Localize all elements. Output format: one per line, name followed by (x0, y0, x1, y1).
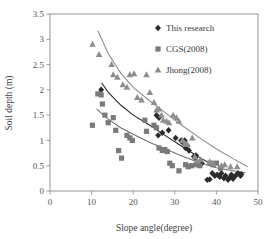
data-point (100, 101, 105, 106)
data-point (130, 138, 135, 143)
data-point (113, 128, 118, 133)
x-tick-label: 0 (48, 197, 53, 207)
x-tick-label: 20 (129, 197, 139, 207)
data-point (166, 127, 172, 133)
chart-figure: 01020304050 00.511.522.533.5 This resear… (0, 0, 276, 239)
data-point (154, 125, 159, 130)
data-point (120, 81, 127, 87)
data-point (96, 51, 103, 57)
data-point (173, 135, 179, 141)
y-tick-label: 3.5 (33, 9, 45, 19)
y-tick-label: 0 (40, 186, 45, 196)
legend-marker-square (155, 46, 160, 51)
legend-label: CGS(2008) (166, 44, 208, 54)
y-tick-label: 0.5 (33, 161, 45, 171)
data-point (165, 149, 170, 154)
x-tick-label: 30 (170, 197, 180, 207)
data-point (119, 156, 124, 161)
y-tick-label: 2.5 (33, 60, 45, 70)
data-point (176, 168, 181, 173)
x-axis-title: Slope angle(degree) (116, 223, 192, 234)
data-point (90, 123, 95, 128)
y-tick-label: 2 (40, 85, 45, 95)
data-point (131, 70, 138, 76)
data-point (147, 89, 154, 95)
chart-legend: This researchCGS(2008)Jhong(2008) (155, 23, 215, 75)
x-axis-tick-labels: 01020304050 (48, 197, 263, 207)
data-point (227, 163, 234, 169)
legend-label: Jhong(2008) (166, 65, 212, 75)
legend-marker-diamond (155, 25, 161, 31)
data-point (197, 163, 202, 168)
y-tick-label: 1.5 (33, 110, 45, 120)
data-point (89, 41, 96, 47)
data-point (189, 163, 194, 168)
data-point (234, 163, 241, 169)
data-point (110, 71, 117, 77)
y-axis-tick-labels: 00.511.522.533.5 (33, 9, 45, 196)
y-tick-label: 1 (40, 136, 45, 146)
data-point (102, 113, 107, 118)
data-point (116, 148, 121, 153)
x-tick-label: 10 (87, 197, 97, 207)
x-tick-label: 40 (212, 197, 222, 207)
data-point (111, 115, 116, 120)
data-points (89, 41, 244, 183)
data-point (189, 134, 196, 140)
data-point (99, 92, 104, 97)
y-axis-title: Soil depth (m) (4, 76, 15, 131)
data-point (106, 120, 111, 125)
data-point (170, 163, 175, 168)
x-tick-label: 50 (254, 197, 264, 207)
legend-marker-triangle (155, 67, 162, 73)
data-point (134, 94, 141, 100)
data-point (142, 118, 147, 123)
legend-label: This research (166, 23, 215, 33)
data-point (143, 71, 150, 77)
scatter-plot: 01020304050 00.511.522.533.5 This resear… (0, 0, 276, 239)
y-tick-label: 3 (40, 34, 45, 44)
data-point (144, 129, 149, 134)
